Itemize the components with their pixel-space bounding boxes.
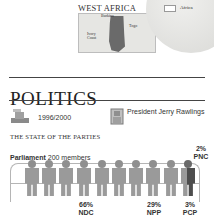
section-title: POLITICS [10,88,97,110]
west-africa-map: Burkina Togo Ivory Coast [78,13,156,53]
member-figure [145,160,160,196]
party-pnc-name: PNC [190,153,212,161]
member-figure [58,160,73,196]
party-ndc: 66% NDC [76,201,96,217]
party-ndc-percent: 66% [76,201,96,209]
member-figure-highlight [180,160,195,196]
top-rule [9,77,205,78]
map-label-togo: Togo [129,24,137,28]
map-label-north: Burkina [101,14,114,18]
party-npp: 29% NPP [144,201,164,217]
party-pnc-percent: 2% [190,145,212,153]
map-label-ivory-coast: Ivory Coast [87,32,103,40]
parties-subheading: THE STATE OF THE PARTIES [10,133,100,140]
leader-name: President Jerry Rawlings [127,108,207,116]
party-pnc: 2% PNC [190,145,212,161]
ballot-box-icon [10,108,30,124]
party-ndc-name: NDC [76,209,96,217]
location-marker-icon [164,5,176,12]
party-npp-percent: 29% [144,201,164,209]
party-npp-name: NPP [144,209,164,217]
map-title: WEST AFRICA [78,3,136,13]
member-figure [128,160,143,196]
member-figure [76,160,91,196]
member-figure [94,160,109,196]
member-figure [41,160,56,196]
member-figure [163,160,178,196]
member-figure [24,160,39,196]
ghana-shape [109,16,125,52]
election-years: 1996/2000 [38,114,71,121]
member-figure [111,160,126,196]
party-pcp-percent: 3% [180,201,200,209]
party-pcp: 3% PCP [180,201,200,217]
party-pcp-name: PCP [180,209,200,217]
title-rule [9,100,205,101]
president-icon [110,108,124,125]
globe-label: Africa [180,5,193,10]
